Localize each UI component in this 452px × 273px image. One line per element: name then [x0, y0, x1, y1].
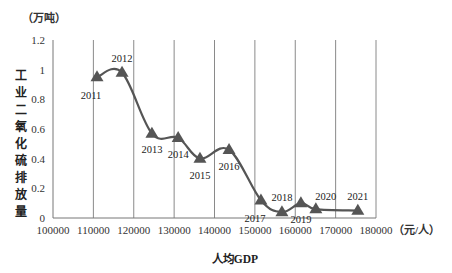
y-label-char: 氧	[14, 119, 27, 134]
data-point-label: 2016	[219, 161, 240, 172]
y-tick-label: 0.8	[31, 93, 45, 105]
data-point-label: 2013	[141, 144, 162, 155]
x-tick-label: 120000	[117, 224, 151, 236]
x-axis-label: 人均GDP	[212, 252, 258, 265]
x-tick-label: 160000	[279, 224, 313, 236]
y-tick-label: 0	[40, 212, 46, 224]
y-label-char: 量	[15, 205, 27, 219]
data-point-label: 2021	[347, 191, 368, 202]
y-axis-unit: （万吨）	[22, 11, 66, 24]
y-label-char: 二	[15, 103, 27, 117]
triangle-marker	[116, 66, 129, 77]
triangle-marker	[294, 196, 307, 207]
line-chart: 00.20.40.60.811.2 1000001100001200001300…	[0, 0, 452, 273]
x-tick-label: 100000	[37, 224, 71, 236]
x-tick-label: 110000	[77, 224, 110, 236]
data-point-label: 2017	[244, 213, 265, 224]
y-tick-label: 0.2	[31, 182, 45, 194]
y-axis-label: 工业二氧化硫排放量	[14, 69, 28, 219]
data-point-label: 2014	[168, 149, 190, 160]
data-point-label: 2012	[112, 53, 133, 64]
y-label-char: 放	[14, 187, 28, 202]
triangle-marker	[351, 204, 364, 215]
data-point-labels: 2011201220132014201520162017201820192020…	[81, 53, 369, 226]
y-tick-label: 1	[40, 64, 46, 76]
y-label-char: 排	[15, 170, 27, 185]
x-tick-label: 130000	[158, 224, 192, 236]
y-label-char: 业	[15, 85, 27, 100]
y-label-char: 化	[15, 136, 27, 151]
y-label-char: 硫	[15, 153, 27, 168]
x-tick-label: 140000	[198, 224, 232, 236]
y-tick-label: 1.2	[31, 34, 45, 46]
y-axis-tick-labels: 00.20.40.60.811.2	[31, 34, 45, 224]
data-point-label: 2020	[315, 191, 336, 202]
data-point-label: 2018	[271, 192, 292, 203]
data-point-label: 2015	[189, 170, 210, 181]
y-label-char: 工	[15, 69, 27, 83]
data-point-label: 2019	[290, 214, 311, 225]
y-tick-label: 0.6	[31, 123, 45, 135]
x-tick-label: 170000	[319, 224, 353, 236]
data-point-label: 2011	[81, 90, 102, 101]
x-tick-label: 180000	[360, 224, 394, 236]
x-axis-tick-labels: 1000001100001200001300001400001500001600…	[37, 224, 394, 236]
x-axis-unit: （元/人）	[393, 223, 440, 236]
y-tick-label: 0.4	[31, 153, 45, 165]
x-tick-label: 150000	[238, 224, 272, 236]
